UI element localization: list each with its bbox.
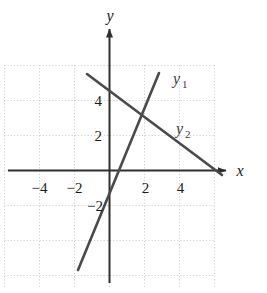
series-label-y2-subscript: 2 <box>185 128 191 140</box>
series-label-y2-base: y <box>174 120 184 138</box>
y-tick-label: −2 <box>87 198 103 214</box>
series-label-y1: y 1 <box>171 70 188 90</box>
y-axis-label: y <box>104 7 114 25</box>
x-tick-label: −2 <box>67 180 83 196</box>
x-tick-label: 4 <box>177 180 185 196</box>
coordinate-plane: −4 −2 2 4 4 2 −2 x y y 1 y 2 <box>0 0 267 293</box>
y-tick-label: 4 <box>95 93 103 109</box>
graph-figure: −4 −2 2 4 4 2 −2 x y y 1 y 2 <box>0 0 267 293</box>
x-tick-label: −4 <box>32 180 48 196</box>
series-label-y2: y 2 <box>174 120 191 140</box>
x-tick-label: 2 <box>142 180 150 196</box>
y-tick-labels: 4 2 −2 <box>87 93 103 214</box>
series-label-y1-base: y <box>171 70 181 88</box>
series-label-y1-subscript: 1 <box>182 78 188 90</box>
line-y2 <box>87 74 222 175</box>
y-tick-label: 2 <box>95 128 103 144</box>
x-axis-label: x <box>235 162 243 179</box>
axes <box>8 29 226 283</box>
